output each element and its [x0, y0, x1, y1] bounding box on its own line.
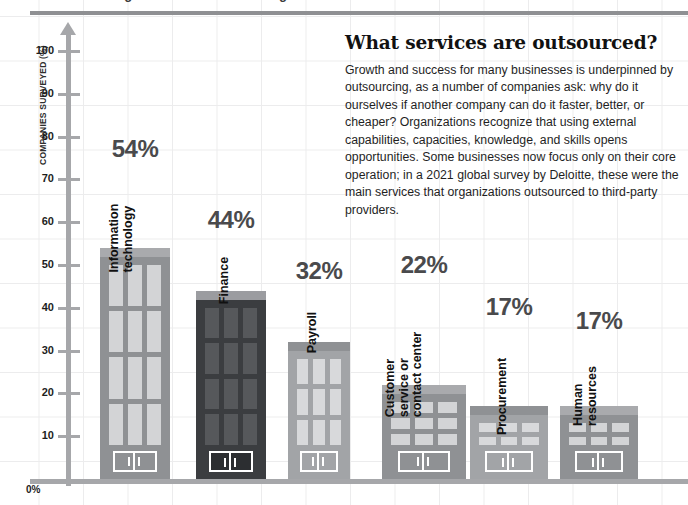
building-window — [147, 357, 161, 398]
bar-2[interactable] — [196, 291, 266, 479]
bar-value-label: 17% — [486, 293, 533, 321]
building-window — [128, 357, 142, 398]
door-leaf — [319, 453, 336, 470]
bar-category-label: Customerservice orcontact center — [384, 332, 425, 417]
building-window — [391, 434, 410, 445]
building-icon — [470, 406, 548, 479]
bar-5[interactable] — [470, 406, 548, 479]
bar-value-label: 32% — [296, 257, 343, 285]
building-window — [205, 414, 219, 445]
body-paragraph: Growth and success for many businesses i… — [345, 62, 683, 219]
building-window — [438, 402, 457, 413]
building-window-grid — [196, 308, 266, 445]
door-handle — [592, 458, 594, 467]
building-window — [205, 308, 219, 339]
building-window — [243, 379, 257, 410]
building-entrance-door — [398, 451, 450, 472]
bar-value-label: 44% — [208, 206, 255, 234]
building-window — [612, 423, 629, 431]
building-window-grid — [100, 265, 170, 445]
building-window — [243, 414, 257, 445]
building-window — [415, 418, 434, 429]
door-handle — [322, 457, 324, 466]
building-window — [501, 437, 518, 445]
building-window — [479, 423, 496, 431]
door-leaf — [599, 453, 621, 470]
building-roof — [196, 291, 266, 300]
building-window — [330, 420, 341, 445]
door-leaf — [211, 453, 231, 470]
page-title: What services are outsourced? — [345, 32, 683, 53]
building-window — [313, 420, 324, 445]
bar-value-label: 54% — [112, 135, 159, 163]
building-window — [205, 379, 219, 410]
bar-category-label: Payroll — [306, 311, 320, 353]
building-window — [243, 343, 257, 374]
building-window — [522, 437, 539, 445]
door-handle — [128, 457, 130, 466]
building-roof — [470, 406, 548, 415]
door-handle — [512, 458, 514, 467]
building-window — [128, 404, 142, 445]
door-handle — [502, 458, 504, 467]
building-window — [522, 423, 539, 431]
building-icon — [100, 248, 170, 479]
building-window — [224, 343, 238, 374]
building-window — [224, 379, 238, 410]
building-window — [391, 418, 410, 429]
building-window — [224, 308, 238, 339]
building-icon — [196, 291, 266, 479]
building-window — [147, 311, 161, 352]
building-window — [313, 359, 324, 384]
door-handle — [427, 457, 429, 466]
building-body — [100, 257, 170, 479]
door-handle — [312, 457, 314, 466]
building-window — [569, 437, 586, 445]
building-entrance-door — [300, 451, 338, 472]
door-leaf — [302, 453, 319, 470]
building-window — [147, 404, 161, 445]
building-entrance-door — [209, 451, 252, 472]
door-handle — [417, 457, 419, 466]
building-window — [297, 359, 308, 384]
bar-category-label: Finance — [218, 257, 232, 304]
bar-3[interactable] — [288, 342, 350, 479]
building-window-grid — [560, 423, 638, 445]
door-handle — [602, 458, 604, 467]
bar-value-label: 22% — [401, 251, 448, 279]
building-window — [243, 308, 257, 339]
building-window — [479, 437, 496, 445]
building-window — [297, 389, 308, 414]
building-body — [196, 300, 266, 479]
building-body — [470, 415, 548, 479]
building-window — [438, 418, 457, 429]
door-handle — [234, 458, 236, 467]
building-window-grid — [288, 359, 350, 445]
bar-category-label: Procurement — [496, 358, 510, 435]
building-window — [128, 311, 142, 352]
bar-category-label: Informationtechnology — [108, 204, 135, 273]
door-leaf — [231, 453, 251, 470]
building-entrance-door — [113, 451, 156, 472]
door-leaf — [509, 453, 531, 470]
building-window — [297, 420, 308, 445]
door-handle — [138, 457, 140, 466]
building-window — [330, 359, 341, 384]
bar-1[interactable] — [100, 248, 170, 479]
building-window — [313, 389, 324, 414]
building-window — [205, 343, 219, 374]
building-window — [612, 437, 629, 445]
door-leaf — [424, 453, 448, 470]
building-roof — [288, 342, 350, 351]
door-leaf — [487, 453, 509, 470]
building-entrance-door — [575, 451, 623, 472]
building-window — [415, 434, 434, 445]
bar-category-label: Humanresources — [572, 366, 599, 426]
building-window — [109, 404, 123, 445]
door-leaf — [135, 453, 155, 470]
door-leaf — [577, 453, 599, 470]
building-window — [224, 414, 238, 445]
door-leaf — [115, 453, 135, 470]
building-window — [109, 311, 123, 352]
building-icon — [288, 342, 350, 479]
